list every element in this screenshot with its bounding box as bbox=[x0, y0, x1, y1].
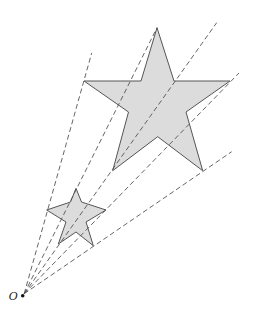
ray-2 bbox=[24, 28, 157, 294]
ray-1 bbox=[24, 53, 92, 294]
center-label: O bbox=[9, 290, 18, 303]
projection-rays-overlay bbox=[24, 23, 239, 294]
center-point-o bbox=[21, 294, 25, 298]
ray-5 bbox=[24, 152, 232, 294]
dilation-diagram: O bbox=[0, 0, 254, 317]
small-star bbox=[47, 188, 106, 245]
large-star bbox=[84, 28, 230, 171]
